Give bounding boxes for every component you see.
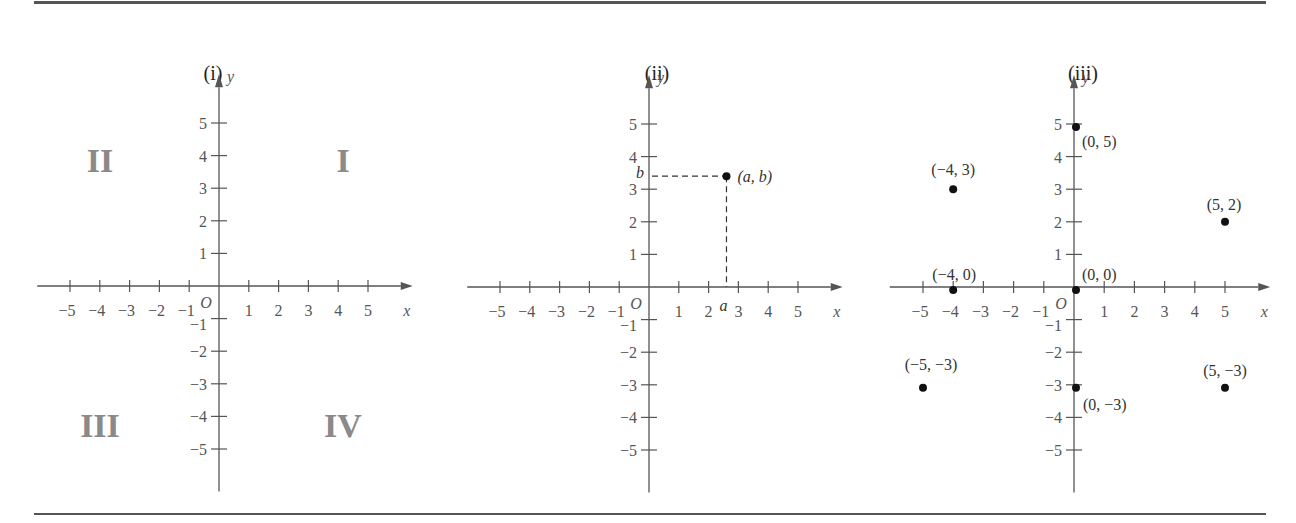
- y-tick-label: −4: [190, 408, 207, 425]
- y-tick-label: 2: [1054, 214, 1062, 231]
- point-marker: [722, 172, 730, 180]
- y-tick-label: −2: [190, 343, 207, 360]
- panel-ii: (ii)−5−4−3−2−112345−5−4−3−2−112345xyO(a,…: [467, 62, 842, 492]
- point-marker: [949, 286, 957, 294]
- x-tick-label: −4: [942, 303, 959, 320]
- y-tick-label: 3: [199, 180, 207, 197]
- b-label: b: [636, 164, 644, 181]
- y-tick-label: 2: [629, 214, 637, 231]
- point-marker: [1072, 123, 1080, 131]
- y-tick-label: −1: [190, 316, 207, 333]
- y-tick-label: 3: [1054, 181, 1062, 198]
- y-tick-label: 5: [1054, 116, 1062, 133]
- point-marker: [1221, 218, 1229, 226]
- x-tick-label: −3: [548, 303, 565, 320]
- y-tick-label: 4: [199, 148, 207, 165]
- origin-label: O: [200, 294, 212, 311]
- quadrant-II-label: II: [87, 142, 113, 179]
- point-marker: [1221, 384, 1229, 392]
- point-marker: [1072, 384, 1080, 392]
- point-label: (−4, 0): [932, 266, 976, 284]
- point-label: (−4, 3): [931, 161, 975, 179]
- x-tick-label: −2: [578, 303, 595, 320]
- x-tick-label: −2: [1002, 303, 1019, 320]
- x-tick-label: 3: [304, 302, 312, 319]
- x-tick-label: 4: [334, 302, 342, 319]
- x-tick-label: 1: [1100, 303, 1108, 320]
- x-tick-label: 1: [245, 302, 253, 319]
- quadrant-III-label: III: [80, 407, 120, 444]
- point-label: (0, −3): [1083, 396, 1127, 414]
- point-marker: [949, 185, 957, 193]
- y-tick-label: 1: [1054, 246, 1062, 263]
- y-tick-label: 5: [629, 116, 637, 133]
- point-label: (−5, −3): [905, 356, 958, 374]
- x-tick-label: 1: [675, 303, 683, 320]
- point-label: (a, b): [737, 168, 772, 186]
- y-tick-label: −5: [1045, 442, 1062, 459]
- point-label: (5, −3): [1203, 362, 1247, 380]
- x-tick-label: −2: [148, 302, 165, 319]
- x-axis-label: x: [832, 303, 840, 320]
- y-tick-label: −3: [190, 376, 207, 393]
- x-axis-arrow-icon: [1258, 283, 1270, 291]
- y-tick-label: −3: [1045, 377, 1062, 394]
- x-tick-label: −5: [58, 302, 75, 319]
- origin-label: O: [1055, 295, 1067, 312]
- x-axis-label: x: [1260, 303, 1268, 320]
- y-tick-label: 1: [199, 245, 207, 262]
- y-tick-label: 4: [629, 149, 637, 166]
- x-tick-label: 2: [705, 303, 713, 320]
- figure-canvas: (i)−5−4−3−2−112345−5−4−3−2−112345xyOIIII…: [0, 0, 1296, 523]
- y-tick-label: −2: [1045, 344, 1062, 361]
- y-tick-label: −1: [1045, 317, 1062, 334]
- x-tick-label: −5: [488, 303, 505, 320]
- x-tick-label: 5: [794, 303, 802, 320]
- y-tick-label: −4: [1045, 409, 1062, 426]
- x-tick-label: 2: [1130, 303, 1138, 320]
- x-tick-label: −4: [518, 303, 535, 320]
- x-tick-label: −5: [911, 303, 928, 320]
- y-tick-label: −2: [620, 344, 637, 361]
- quadrant-IV-label: IV: [324, 407, 362, 444]
- y-tick-label: 1: [629, 246, 637, 263]
- point-label: (5, 2): [1207, 196, 1242, 214]
- origin-label: O: [630, 295, 642, 312]
- y-tick-label: 3: [629, 181, 637, 198]
- y-tick-label: −5: [190, 441, 207, 458]
- y-axis-label: y: [1080, 69, 1090, 87]
- panel-iii: (iii)−5−4−3−2−112345−5−4−3−2−112345xyO(0…: [890, 62, 1271, 492]
- x-axis-arrow-icon: [831, 283, 843, 291]
- point-marker: [919, 384, 927, 392]
- y-tick-label: 2: [199, 213, 207, 230]
- y-axis-label: y: [225, 68, 235, 86]
- point-marker: [1072, 286, 1080, 294]
- x-tick-label: 4: [764, 303, 772, 320]
- y-tick-label: −4: [620, 409, 637, 426]
- y-tick-label: 5: [199, 115, 207, 132]
- x-axis-label: x: [402, 302, 410, 319]
- y-axis-label: y: [655, 69, 665, 87]
- y-tick-label: 4: [1054, 149, 1062, 166]
- x-tick-label: 5: [1221, 303, 1229, 320]
- panel-i: (i)−5−4−3−2−112345−5−4−3−2−112345xyOIIII…: [37, 62, 412, 491]
- quadrant-I-label: I: [336, 142, 349, 179]
- y-tick-label: −5: [620, 442, 637, 459]
- x-tick-label: −3: [972, 303, 989, 320]
- x-tick-label: 5: [364, 302, 372, 319]
- x-tick-label: −3: [118, 302, 135, 319]
- x-axis-arrow-icon: [401, 282, 413, 290]
- y-tick-label: −1: [620, 317, 637, 334]
- a-label: a: [719, 297, 727, 314]
- x-tick-label: 4: [1191, 303, 1199, 320]
- x-tick-label: 2: [275, 302, 283, 319]
- x-tick-label: 3: [1161, 303, 1169, 320]
- point-label: (0, 0): [1082, 266, 1117, 284]
- x-tick-label: −4: [88, 302, 105, 319]
- point-label: (0, 5): [1082, 133, 1117, 151]
- x-tick-label: 3: [734, 303, 742, 320]
- y-tick-label: −3: [620, 377, 637, 394]
